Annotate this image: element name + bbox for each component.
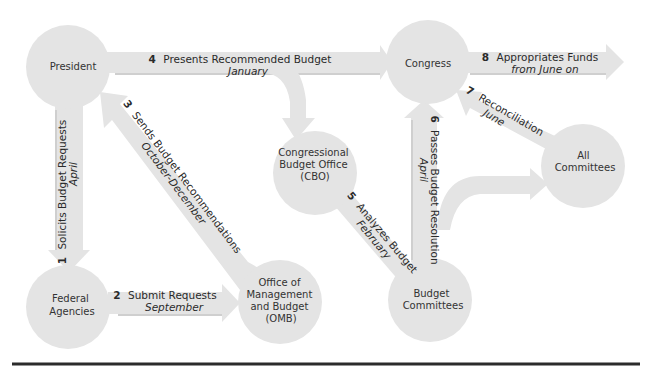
label-cbo-line-3: (CBO) <box>300 171 329 182</box>
label-congress: Congress <box>405 58 451 69</box>
label-budget-committees-line-2: Committees <box>403 300 464 311</box>
label-cbo-line-2: Budget Office <box>279 159 347 170</box>
step-6-label: 6 Passes Budget Resolution <box>429 115 441 264</box>
step-1-number: 1 <box>56 257 68 264</box>
step-8-when: from June on <box>511 63 578 75</box>
federal-budget-process-diagram: President Congress Congressional Budget … <box>0 0 646 373</box>
label-omb-line-2: Management <box>246 289 312 300</box>
step-3-when: October-December <box>139 140 209 227</box>
label-all-committees-line-2: Committees <box>555 162 616 173</box>
step-2-when: September <box>145 301 204 313</box>
step-4-label: 4 Presents Recommended Budget <box>149 53 332 65</box>
label-cbo-line-1: Congressional <box>278 147 348 158</box>
step-8-label: 8 Appropriates Funds <box>482 51 598 63</box>
step-6-when: April <box>418 157 430 182</box>
step-1-label: 1 Solicits Budget Requests <box>56 120 68 264</box>
step-6-action: Passes Budget Resolution <box>429 130 441 264</box>
step-2-number: 2 <box>113 289 120 301</box>
step-1-when: April <box>67 162 79 187</box>
label-budget-committees-line-1: Budget <box>413 288 449 299</box>
step-4-number: 4 <box>149 53 156 65</box>
label-president: President <box>50 61 97 72</box>
label-omb-line-3: and Budget <box>250 301 308 312</box>
step-8-action: Appropriates Funds <box>497 51 599 63</box>
step-4-when: January <box>226 65 269 77</box>
step-4-action: Presents Recommended Budget <box>163 53 331 65</box>
step-6-number: 6 <box>429 115 441 122</box>
label-federal-agencies-line-1: Federal <box>52 293 89 304</box>
arrow-6-branch-to-all-committees <box>437 168 548 230</box>
label-federal-agencies-line-2: Agencies <box>49 306 94 317</box>
step-3-label: 3 Sends Budget Recommendations <box>121 97 244 255</box>
label-omb-line-1: Office of <box>258 277 300 288</box>
step-8-number: 8 <box>482 51 489 63</box>
label-omb-line-4: (OMB) <box>265 313 296 324</box>
label-all-committees-line-1: All <box>577 150 589 161</box>
step-3-action: Sends Budget Recommendations <box>130 109 244 255</box>
step-2-label: 2 Submit Requests <box>113 289 216 301</box>
step-2-action: Submit Requests <box>128 289 217 301</box>
